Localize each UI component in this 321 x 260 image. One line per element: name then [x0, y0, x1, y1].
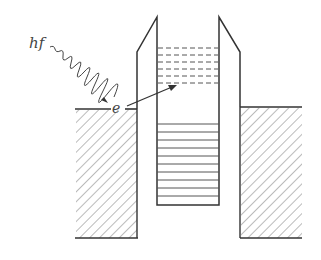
quantum-well — [137, 17, 240, 205]
diagram-canvas: hf e — [0, 0, 321, 260]
empty-levels — [158, 48, 218, 83]
filled-levels — [157, 124, 219, 196]
electron-label: e — [112, 100, 120, 116]
right-electrode — [240, 107, 302, 238]
left-electrode — [75, 109, 138, 238]
photon-label: hf — [29, 34, 47, 52]
electron-arrow-icon — [127, 85, 177, 106]
photon-wave-icon — [50, 46, 118, 103]
